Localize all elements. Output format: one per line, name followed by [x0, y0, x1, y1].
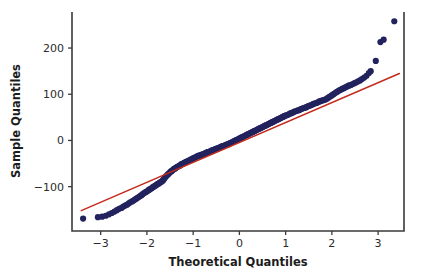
axes-background	[72, 12, 404, 231]
x-axis-title: Theoretical Quantiles	[168, 255, 307, 269]
qq-plot-figure: −3−2−10123 −1000100200 Theoretical Quant…	[0, 0, 425, 279]
x-tick-label: −2	[139, 237, 155, 250]
x-tick-label: −1	[185, 237, 201, 250]
x-tick-label: 0	[236, 237, 243, 250]
x-tick-label: 2	[328, 237, 335, 250]
y-tick-label: 100	[43, 88, 64, 101]
qq-plot-canvas: −3−2−10123 −1000100200 Theoretical Quant…	[0, 0, 425, 279]
x-tick-label: 3	[375, 237, 382, 250]
x-tick-label: −3	[93, 237, 109, 250]
y-tick-label: −100	[34, 181, 64, 194]
y-tick-label: 0	[57, 134, 64, 147]
y-tick-label: 200	[43, 42, 64, 55]
y-axis-title: Sample Quantiles	[9, 64, 23, 178]
x-tick-label: 1	[282, 237, 289, 250]
